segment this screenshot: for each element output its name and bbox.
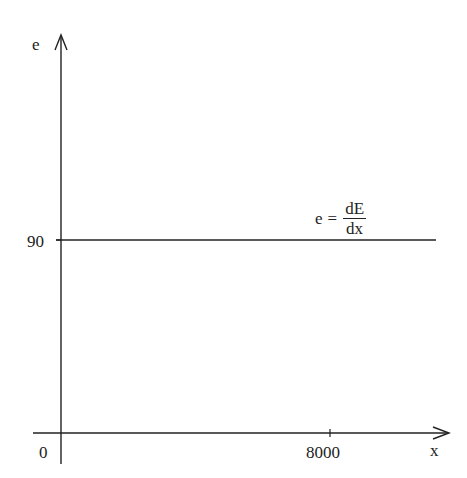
series-annotation: e = dE dx: [315, 200, 366, 237]
annotation-denominator: dx: [346, 219, 363, 237]
origin-label: 0: [39, 444, 48, 461]
y-tick-label-90: 90: [27, 233, 44, 250]
chart-canvas: [0, 0, 467, 478]
annotation-lhs: e: [315, 209, 323, 229]
y-axis-label: e: [32, 36, 40, 53]
annotation-equals: =: [328, 209, 338, 229]
annotation-fraction: dE dx: [343, 200, 366, 237]
annotation-numerator: dE: [343, 200, 366, 219]
x-tick-label-8000: 8000: [306, 444, 340, 461]
x-axis-label: x: [430, 442, 439, 459]
